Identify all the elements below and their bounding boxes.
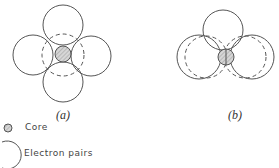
electron-pair-legend-icon (2, 141, 21, 168)
core-legend-icon (4, 124, 12, 132)
electron-pair-top-b (203, 10, 243, 50)
core-a (55, 46, 71, 62)
legend-core-label: Core (25, 122, 48, 132)
electron-pair-bottom (43, 62, 83, 102)
electron-pair-right-b (230, 35, 274, 79)
panel-a (13, 5, 111, 102)
panel-b (177, 10, 274, 79)
electron-pair-left-b (177, 35, 221, 79)
panel-a-label: (a) (56, 108, 70, 123)
diagram-canvas (0, 0, 279, 168)
legend-electron-pairs-label: Electron pairs (24, 148, 93, 158)
legend-symbols (2, 124, 21, 168)
panel-b-label: (b) (228, 108, 242, 123)
